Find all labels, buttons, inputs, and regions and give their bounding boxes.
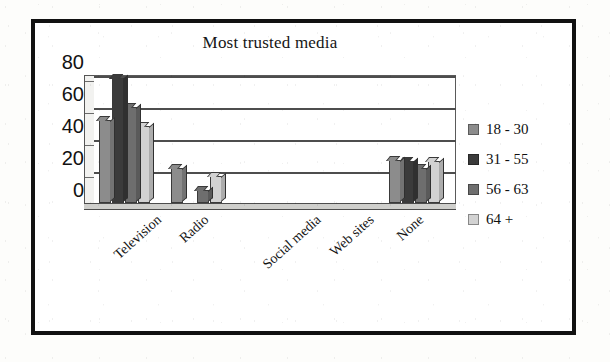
bar-top-face (194, 186, 208, 191)
chart-figure: Most trusted media 806040200 TelevisionR… (0, 0, 610, 362)
bar-top-face (386, 156, 400, 161)
legend-item-label: 18 - 30 (486, 121, 529, 138)
bar-side-face (426, 165, 431, 202)
legend-swatch-icon (468, 214, 479, 225)
y-axis-tick-label: 60 (40, 84, 84, 104)
bar-top-face (425, 157, 439, 162)
bar-side-face (136, 104, 141, 202)
bar (99, 120, 111, 203)
legend-item: 18 - 30 (468, 114, 568, 144)
legend-item: 31 - 55 (468, 144, 568, 174)
y-axis-tick-label: 20 (40, 148, 84, 168)
plot-side-wall (84, 75, 94, 203)
x-axis-category-label: Television (111, 212, 165, 263)
legend-item-label: 31 - 55 (486, 151, 529, 168)
bar-side-face (439, 158, 444, 202)
y-axis-tick-label: 40 (40, 116, 84, 136)
bar-side-face (182, 165, 187, 202)
chart-title: Most trusted media (90, 33, 450, 53)
legend-item-label: 56 - 63 (486, 181, 529, 198)
bar-side-face (110, 117, 115, 202)
bar-side-face (149, 123, 154, 202)
bar-side-face (400, 157, 405, 202)
bar-top-face (96, 116, 110, 121)
bar-top-face (207, 172, 221, 177)
bar-side-face (221, 173, 226, 202)
legend-item: 56 - 63 (468, 174, 568, 204)
legend-swatch-icon (468, 154, 479, 165)
plot-area (84, 75, 456, 210)
x-axis-category-label: Web sites (327, 212, 378, 260)
y-axis-tick-label: 80 (40, 52, 84, 72)
bar (389, 160, 401, 203)
legend-swatch-icon (468, 184, 479, 195)
x-axis-category-labels: TelevisionRadioSocial mediaWeb sitesNone (84, 212, 474, 312)
legend-item: 64 + (468, 204, 568, 234)
bar-top-face (168, 164, 182, 169)
bar-top-face (109, 74, 123, 79)
bar-side-face (123, 75, 128, 202)
legend-swatch-icon (468, 124, 479, 135)
plot-floor (84, 203, 456, 210)
x-axis-category-label: Social media (259, 212, 324, 273)
legend-item-label: 64 + (486, 211, 513, 228)
chart-legend: 18 - 3031 - 5556 - 6364 + (468, 114, 568, 234)
x-axis-category-label: None (393, 212, 426, 244)
bar (171, 168, 183, 203)
y-axis: 806040200 (36, 62, 84, 212)
bar-side-face (413, 158, 418, 202)
bar-series-container (94, 75, 456, 203)
x-axis-category-label: Radio (177, 212, 213, 246)
bar (197, 190, 209, 203)
y-axis-tick-label: 0 (40, 180, 84, 200)
